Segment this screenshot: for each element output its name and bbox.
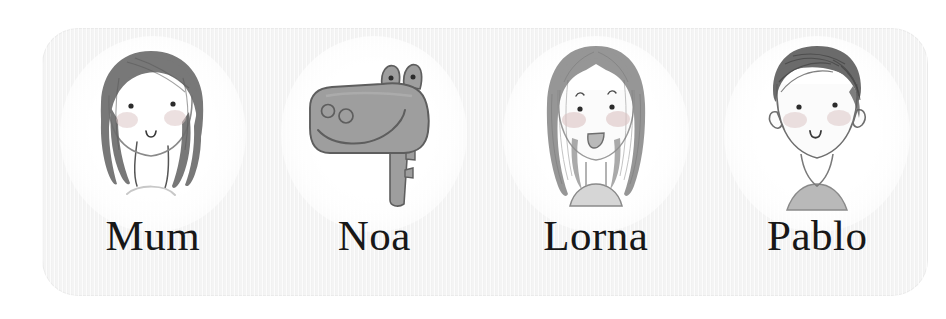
character-item-mum[interactable]: Mum xyxy=(42,28,264,296)
character-picker-card: Mum xyxy=(42,28,928,296)
eye-right xyxy=(170,101,175,106)
character-name-noa: Noa xyxy=(338,214,411,257)
cheek-right xyxy=(827,110,851,126)
character-name-mum: Mum xyxy=(105,214,200,257)
character-picker-screen: Mum xyxy=(0,0,946,319)
cheek-left xyxy=(116,112,138,128)
mouth xyxy=(146,131,156,137)
eye-left xyxy=(128,103,133,108)
shirt xyxy=(787,184,847,210)
character-name-pablo: Pablo xyxy=(767,214,867,257)
character-item-lorna[interactable]: Lorna xyxy=(485,28,707,296)
mum-portrait-icon xyxy=(65,34,241,220)
eye-right xyxy=(833,102,838,107)
character-list: Mum xyxy=(42,28,928,296)
character-name-lorna: Lorna xyxy=(543,214,648,257)
eye-left xyxy=(577,106,582,111)
shirt xyxy=(570,184,622,206)
eye-right xyxy=(609,104,614,109)
character-item-noa[interactable]: Noa xyxy=(264,28,486,296)
eye-left xyxy=(797,104,802,109)
lorna-portrait-icon xyxy=(508,34,684,220)
cheek-left xyxy=(783,112,807,128)
eye-left xyxy=(389,76,394,81)
cheek-right xyxy=(164,110,186,126)
noa-hippo-icon xyxy=(286,34,462,220)
character-item-pablo[interactable]: Pablo xyxy=(707,28,929,296)
pablo-portrait-icon xyxy=(729,34,905,220)
eye-right xyxy=(411,75,416,80)
cheek-right xyxy=(606,111,630,127)
cheek-left xyxy=(562,112,586,128)
